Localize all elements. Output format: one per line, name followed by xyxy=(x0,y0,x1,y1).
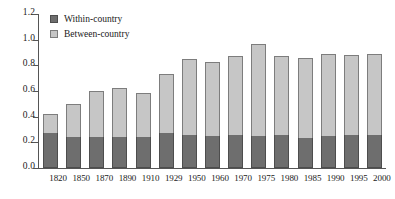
bar-segment-between-country xyxy=(136,93,151,137)
bar-segment-between-country xyxy=(228,56,243,135)
y-tick-mark xyxy=(33,40,38,41)
bar-segment-within-country xyxy=(205,136,220,168)
y-tick-mark xyxy=(33,142,38,143)
y-tick-mark xyxy=(33,91,38,92)
bar-segment-within-country xyxy=(251,136,266,168)
bar-segment-within-country xyxy=(159,133,174,168)
bar-segment-between-country xyxy=(112,88,127,137)
y-tick-mark xyxy=(33,65,38,66)
y-tick-label: 0.6 xyxy=(9,84,35,94)
bar-segment-within-country xyxy=(228,135,243,168)
bar-1995 xyxy=(344,55,359,168)
bar-1970 xyxy=(228,56,243,168)
bar-1850 xyxy=(66,104,81,168)
y-tick-mark xyxy=(33,168,38,169)
bar-1820 xyxy=(43,114,58,168)
bar-segment-between-country xyxy=(274,56,289,135)
x-axis-line xyxy=(38,168,386,169)
y-tick-label: 0.0 xyxy=(9,161,35,171)
bar-1890 xyxy=(112,88,127,168)
bar-1990 xyxy=(321,54,336,168)
bar-1980 xyxy=(274,56,289,168)
bar-1975 xyxy=(251,44,266,168)
bar-segment-between-country xyxy=(182,59,197,135)
bar-segment-within-country xyxy=(344,135,359,168)
bar-segment-between-country xyxy=(251,44,266,136)
bar-segment-within-country xyxy=(66,137,81,168)
bar-segment-between-country xyxy=(321,54,336,135)
y-tick-label: 0.4 xyxy=(9,110,35,120)
bar-1950 xyxy=(182,59,197,168)
legend-swatch-icon-between xyxy=(50,30,58,38)
y-tick-label: 0.8 xyxy=(9,58,35,68)
bar-segment-within-country xyxy=(182,135,197,168)
legend-item-between: Between-country xyxy=(50,27,129,40)
bar-segment-between-country xyxy=(298,58,313,138)
y-tick-mark xyxy=(33,14,38,15)
bar-segment-within-country xyxy=(43,133,58,168)
bar-1985 xyxy=(298,58,313,168)
bar-segment-between-country xyxy=(367,54,382,134)
legend-swatch-icon-within xyxy=(50,15,58,23)
bar-segment-within-country xyxy=(136,137,151,168)
bar-segment-within-country xyxy=(274,135,289,168)
bar-2000 xyxy=(367,54,382,168)
x-tick-label: 2000 xyxy=(365,173,395,183)
legend-label-within: Within-country xyxy=(64,14,122,24)
bar-segment-within-country xyxy=(89,137,104,168)
bar-segment-within-country xyxy=(321,136,336,168)
bar-segment-between-country xyxy=(344,55,359,135)
bar-1910 xyxy=(136,93,151,168)
bar-segment-within-country xyxy=(112,137,127,168)
bar-1870 xyxy=(89,91,104,168)
y-tick-label: 1.0 xyxy=(9,33,35,43)
y-tick-mark xyxy=(33,117,38,118)
legend-item-within: Within-country xyxy=(50,12,129,25)
bar-segment-between-country xyxy=(89,91,104,137)
bar-segment-between-country xyxy=(43,114,58,133)
chart-legend: Within-country Between-country xyxy=(50,12,129,42)
bar-1929 xyxy=(159,74,174,168)
y-tick-label: 0.2 xyxy=(9,135,35,145)
stacked-bar-chart: 0.00.20.40.60.81.01.2 182018501870189019… xyxy=(0,0,395,199)
bar-segment-within-country xyxy=(367,135,382,168)
bar-segment-within-country xyxy=(298,138,313,168)
bar-1960 xyxy=(205,62,220,169)
bar-segment-between-country xyxy=(205,62,220,136)
legend-label-between: Between-country xyxy=(64,29,129,39)
y-tick-label: 1.2 xyxy=(9,7,35,17)
bar-segment-between-country xyxy=(159,74,174,133)
bar-segment-between-country xyxy=(66,104,81,136)
